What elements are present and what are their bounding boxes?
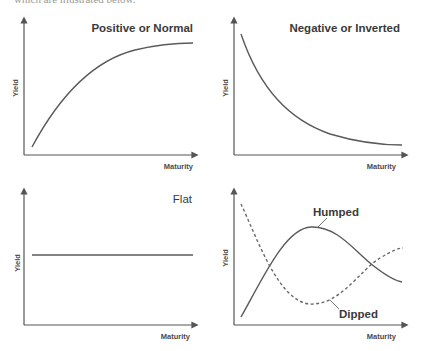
chart-flat: Flat Maturity Yield bbox=[13, 191, 195, 341]
curve-dipped bbox=[241, 204, 403, 304]
chart-title: Negative or Inverted bbox=[289, 22, 400, 34]
y-axis-label: Yield bbox=[13, 254, 22, 272]
x-axis-label: Maturity bbox=[164, 162, 194, 171]
y-axis-label: Yield bbox=[221, 79, 230, 97]
chart-title: Positive or Normal bbox=[91, 22, 193, 34]
y-axis-label: Yield bbox=[221, 249, 230, 267]
annotation-humped: Humped bbox=[313, 206, 359, 218]
x-axis-label: Maturity bbox=[367, 332, 397, 341]
annotation-dipped: Dipped bbox=[339, 308, 378, 320]
y-axis-label: Yield bbox=[11, 79, 20, 97]
x-axis-label: Maturity bbox=[161, 332, 191, 341]
x-axis-label: Maturity bbox=[367, 162, 397, 171]
curve-positive bbox=[32, 43, 193, 147]
chart-humped-dipped: Maturity Yield Humped Dipped bbox=[221, 191, 405, 341]
chart-positive-normal: Positive or Normal Maturity Yield bbox=[11, 20, 195, 171]
curve-humped bbox=[241, 227, 402, 317]
curve-inverted bbox=[241, 34, 402, 145]
humped-leader-line bbox=[318, 218, 327, 227]
dipped-leader-line bbox=[330, 300, 339, 309]
chart-negative-inverted: Negative or Inverted Maturity Yield bbox=[221, 20, 405, 171]
chart-title: Flat bbox=[173, 193, 193, 205]
yield-curve-figure: Positive or Normal Maturity Yield Negati… bbox=[0, 0, 424, 351]
